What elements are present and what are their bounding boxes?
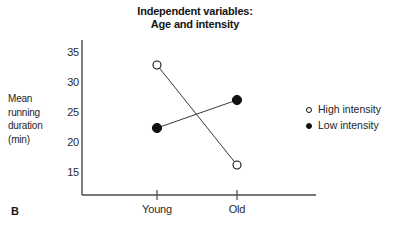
series-line-high-intensity <box>157 65 237 165</box>
data-point-low-old <box>232 95 241 104</box>
data-point-low-young <box>152 123 161 132</box>
panel-label: B <box>11 205 19 217</box>
legend-item-high-intensity: High intensity <box>302 101 381 117</box>
legend-label-high-intensity: High intensity <box>318 103 381 115</box>
chart-legend: High intensity Low intensity <box>302 101 381 133</box>
data-point-high-young <box>153 61 161 69</box>
open-circle-icon <box>302 103 315 115</box>
chart-figure: Independent variables: Age and intensity… <box>0 0 403 235</box>
filled-circle-icon <box>302 119 315 131</box>
data-point-high-old <box>233 161 241 169</box>
series-line-low-intensity <box>157 100 237 128</box>
legend-item-low-intensity: Low intensity <box>302 117 381 133</box>
legend-label-low-intensity: Low intensity <box>318 119 379 131</box>
